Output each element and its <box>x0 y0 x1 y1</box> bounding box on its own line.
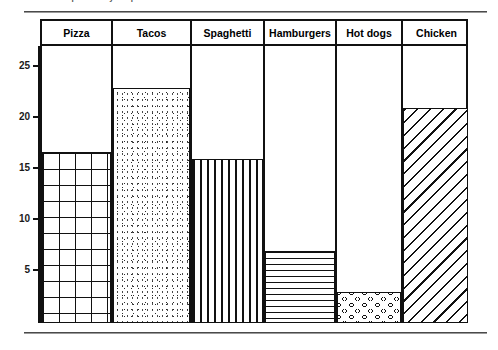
bar-hotdogs <box>337 292 401 323</box>
y-tick-label-25: 25 <box>6 61 30 71</box>
column-header-hamburgers: Hamburgers <box>265 21 337 44</box>
column-header-hotdogs: Hot dogs <box>337 21 403 44</box>
column-header-spaghetti: Spaghetti <box>192 21 265 44</box>
bar-tacos <box>113 88 190 323</box>
y-tick-mark-25 <box>33 65 39 67</box>
y-tick-mark-5 <box>33 269 39 271</box>
y-tick-label-15: 15 <box>6 163 30 173</box>
bar-spaghetti <box>192 159 263 323</box>
category-header-row: Pizza Tacos Spaghetti Hamburgers Hot dog… <box>40 19 468 46</box>
y-tick-label-5: 5 <box>6 265 30 275</box>
y-tick-mark-15 <box>33 167 39 169</box>
column-divider-4 <box>335 46 337 323</box>
column-header-chicken: Chicken <box>403 21 470 44</box>
top-divider-rule <box>24 11 487 13</box>
bar-pizza <box>42 152 111 323</box>
bar-hamburgers <box>265 251 335 323</box>
y-tick-mark-20 <box>33 116 39 118</box>
bottom-divider-rule <box>24 332 487 334</box>
chart-caption: Sample Survey Graph <box>54 0 141 2</box>
y-tick-label-10: 10 <box>6 214 30 224</box>
column-header-tacos: Tacos <box>113 21 192 44</box>
y-tick-mark-10 <box>33 218 39 220</box>
y-tick-label-20: 20 <box>6 112 30 122</box>
column-header-pizza: Pizza <box>42 21 113 44</box>
bar-chicken <box>403 108 468 323</box>
survey-bar-chart: Sample Survey Graph 25 20 15 10 5 Pizza … <box>0 0 498 350</box>
